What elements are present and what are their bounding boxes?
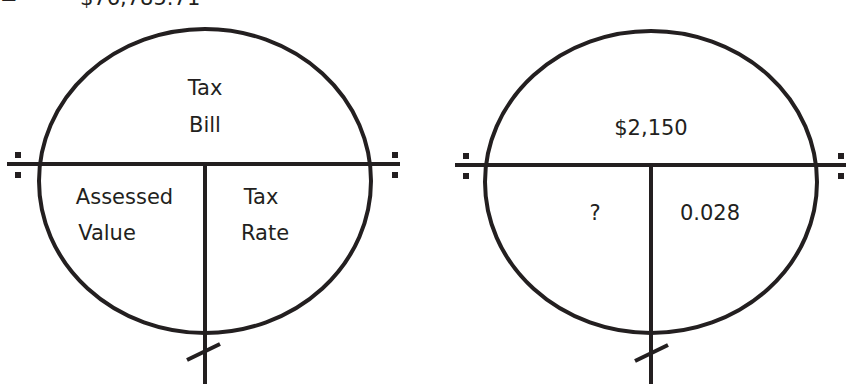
assessed-value-label-line2: Value [62, 219, 152, 247]
assessed-value-unknown: ? [575, 199, 615, 227]
tax-bill-value: $2,150 [596, 114, 706, 142]
tax-bill-label-line1: Tax [170, 74, 240, 102]
tax-bill-label-line2: Bill [170, 111, 240, 139]
tax-rate-label-line2: Rate [230, 219, 300, 247]
assessed-value-label-line1: Assessed [62, 183, 187, 211]
example-t-circle [455, 31, 846, 384]
tax-rate-label-line1: Tax [226, 183, 296, 211]
tax-rate-value: 0.028 [670, 199, 750, 227]
